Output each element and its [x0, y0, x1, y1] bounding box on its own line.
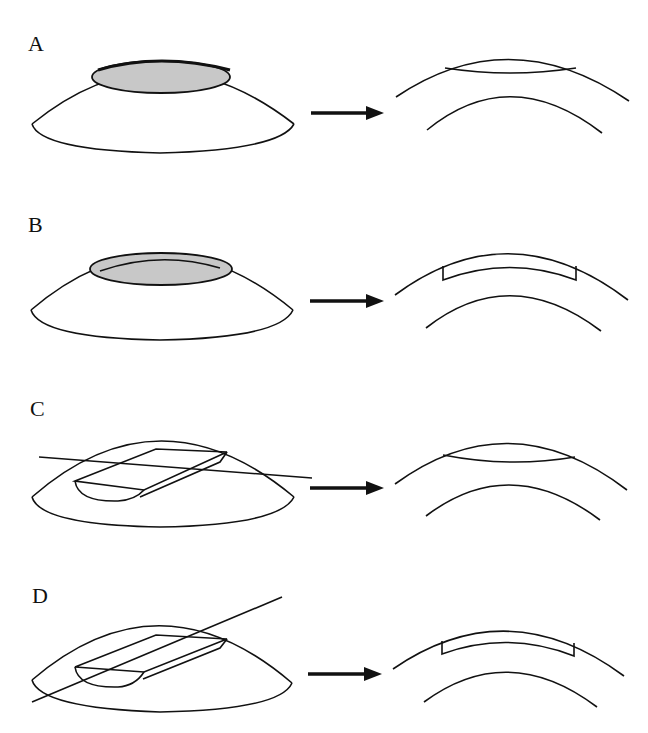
panel-c-blade	[39, 449, 312, 501]
diagram-canvas	[0, 0, 648, 733]
panel-d-result	[393, 631, 624, 707]
panel-d-dome	[32, 626, 292, 712]
arrow-icon	[310, 294, 384, 308]
panel-c-result	[395, 443, 627, 520]
arrow-icon	[308, 667, 382, 681]
arrow-icon	[310, 481, 384, 495]
panel-b-dome	[31, 253, 293, 340]
arrow-icon	[311, 106, 384, 120]
panel-a-dome	[32, 61, 294, 153]
panel-c-dome	[32, 441, 294, 527]
panel-a-result	[396, 59, 629, 133]
panel-b-result	[395, 254, 628, 331]
